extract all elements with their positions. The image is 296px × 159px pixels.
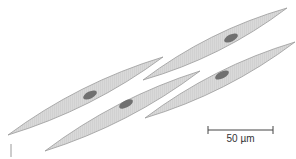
smooth-muscle-cell [145, 42, 295, 118]
smooth-muscle-cell [143, 8, 287, 80]
scale-bar-label: 50 µm [227, 133, 255, 144]
